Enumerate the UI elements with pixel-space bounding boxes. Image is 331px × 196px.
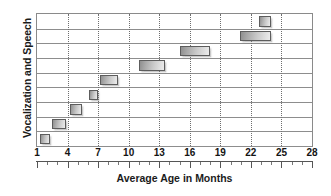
axis-tick-major (312, 162, 313, 168)
axis-tick-minor (108, 162, 109, 165)
axis-tick-minor (210, 162, 211, 165)
x-tick-label: 25 (276, 147, 287, 158)
gridline-horizontal (37, 102, 312, 103)
gridline-horizontal (37, 73, 312, 74)
x-tick-label: 4 (65, 147, 71, 158)
axis-tick-minor (88, 162, 89, 165)
gridline-horizontal (37, 87, 312, 88)
axis-tick-minor (139, 162, 140, 165)
gridline-vertical (68, 14, 69, 146)
bar (40, 134, 50, 144)
plot-area (36, 13, 313, 147)
x-tick-label: 16 (184, 147, 195, 158)
bar (180, 46, 211, 56)
gridline-vertical (281, 14, 282, 146)
axis-tick-minor (169, 162, 170, 165)
axis-tick-minor (271, 162, 272, 165)
axis-tick-minor (78, 162, 79, 165)
axis-tick-major (220, 162, 221, 168)
gridline-horizontal (37, 29, 312, 30)
axis-tick-major (98, 162, 99, 168)
x-axis-ruler (36, 161, 313, 169)
x-tick-label: 28 (306, 147, 317, 158)
axis-tick-major (281, 162, 282, 168)
axis-tick-minor (261, 162, 262, 165)
axis-tick-minor (241, 162, 242, 165)
axis-tick-major (159, 162, 160, 168)
gridline-vertical (98, 14, 99, 146)
gridline-horizontal (37, 131, 312, 132)
gridline-vertical (190, 14, 191, 146)
x-tick-label: 1 (34, 147, 40, 158)
bar (89, 90, 98, 100)
axis-tick-minor (149, 162, 150, 165)
x-axis-tick-labels: 14710131619222528 (36, 147, 313, 162)
bar (240, 31, 272, 41)
axis-tick-minor (302, 162, 303, 165)
axis-tick-major (251, 162, 252, 168)
chart-container: Vocalization and Speech 1471013161922252… (0, 0, 331, 196)
y-axis-title: Vocalization and Speech (21, 3, 33, 153)
axis-tick-minor (57, 162, 58, 165)
gridline-vertical (220, 14, 221, 146)
gridline-horizontal (37, 43, 312, 44)
axis-tick-major (37, 162, 38, 168)
bar (259, 16, 271, 26)
gridline-horizontal (37, 58, 312, 59)
axis-tick-major (190, 162, 191, 168)
x-tick-label: 13 (154, 147, 165, 158)
x-tick-label: 10 (123, 147, 134, 158)
gridline-vertical (159, 14, 160, 146)
axis-tick-minor (292, 162, 293, 165)
gridline-horizontal (37, 117, 312, 118)
gridline-vertical (129, 14, 130, 146)
bar (100, 75, 118, 85)
x-tick-label: 19 (215, 147, 226, 158)
bar (139, 60, 165, 70)
axis-tick-major (129, 162, 130, 168)
bar (70, 104, 82, 114)
axis-tick-minor (118, 162, 119, 165)
axis-tick-minor (200, 162, 201, 165)
axis-tick-minor (180, 162, 181, 165)
axis-tick-minor (47, 162, 48, 165)
axis-tick-major (68, 162, 69, 168)
bar (52, 119, 65, 129)
x-axis-title: Average Age in Months (36, 172, 313, 184)
axis-tick-minor (231, 162, 232, 165)
x-tick-label: 7 (95, 147, 101, 158)
x-tick-label: 22 (245, 147, 256, 158)
